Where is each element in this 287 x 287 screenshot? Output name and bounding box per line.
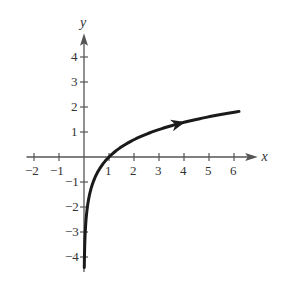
x-tick-label: 2 <box>130 163 137 178</box>
y-axis-label: y <box>78 15 87 30</box>
y-tick-label: −4 <box>65 249 79 264</box>
graph: xy −2−1123456−4−3−2−11234 <box>0 0 287 287</box>
x-tick-label: 1 <box>105 163 112 178</box>
x-tick-label: 5 <box>205 163 212 178</box>
x-tick-label: −2 <box>25 163 39 178</box>
y-tick-label: 1 <box>71 124 78 139</box>
curve <box>84 111 239 267</box>
y-tick-label: −2 <box>65 199 79 214</box>
x-tick-label: −1 <box>50 163 64 178</box>
x-axis-label: x <box>261 149 269 164</box>
axes: xy <box>27 15 269 272</box>
x-tick-label: 3 <box>155 163 162 178</box>
y-tick-label: 3 <box>71 74 78 89</box>
y-tick-label: 2 <box>71 99 78 114</box>
x-tick-label: 4 <box>180 163 187 178</box>
y-tick-label: −1 <box>65 174 79 189</box>
y-tick-label: 4 <box>71 49 78 64</box>
curve-path <box>84 111 239 267</box>
y-tick-label: −3 <box>65 224 79 239</box>
x-tick-label: 6 <box>230 163 237 178</box>
